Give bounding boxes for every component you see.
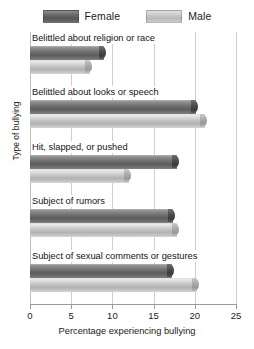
category-label: Belittled about religion or race: [31, 32, 157, 44]
bar-end-cap: [168, 209, 175, 222]
bar-body: [30, 209, 173, 223]
bar-female: [30, 155, 177, 168]
legend-label-male: Male: [188, 10, 211, 22]
bar-group: Belittled about religion or race: [30, 32, 236, 86]
x-axis-tick-label: 20: [190, 310, 201, 321]
bar-body: [30, 169, 129, 183]
chart-legend: Female Male: [0, 6, 254, 26]
bar-male: [30, 60, 90, 73]
bar-body: [30, 114, 205, 128]
gridline: [236, 32, 237, 304]
bar-female: [30, 264, 172, 277]
bar-end-cap: [200, 114, 207, 127]
x-axis-tick-label: 0: [27, 310, 32, 321]
bar-male: [30, 278, 197, 291]
x-axis-tick: [112, 304, 113, 309]
bar-end-cap: [191, 100, 198, 113]
bar-female: [30, 100, 196, 113]
bar-end-cap: [192, 278, 199, 291]
x-axis-title: Percentage experiencing bullying: [0, 326, 254, 336]
bar-group: Subject of sexual comments or gestures: [30, 250, 236, 304]
bar-body: [30, 223, 177, 237]
category-label: Belittled about looks or speech: [31, 86, 161, 98]
bar-male: [30, 223, 177, 236]
bar-male: [30, 169, 129, 182]
x-axis-tick-label: 15: [148, 310, 159, 321]
bar-groups: Belittled about religion or raceBelittle…: [30, 32, 236, 304]
plot-area: Belittled about religion or raceBelittle…: [30, 32, 236, 304]
bar-chart: Female Male Type of bullying Belittled a…: [0, 0, 254, 349]
female-swatch-icon: [43, 10, 79, 23]
x-axis-tick: [236, 304, 237, 309]
x-axis-tick: [154, 304, 155, 309]
x-axis-line: [30, 304, 237, 305]
x-axis-tick-label: 10: [107, 310, 118, 321]
bar-end-cap: [85, 60, 92, 73]
legend-item-female: Female: [43, 10, 121, 23]
bar-body: [30, 155, 177, 169]
bar-body: [30, 278, 197, 292]
bar-end-cap: [99, 46, 106, 59]
male-swatch-icon: [146, 10, 182, 23]
category-label: Subject of rumors: [31, 195, 107, 207]
legend-label-female: Female: [85, 10, 121, 22]
bar-group: Subject of rumors: [30, 195, 236, 249]
bar-body: [30, 46, 104, 60]
bar-end-cap: [172, 155, 179, 168]
bar-end-cap: [172, 223, 179, 236]
bar-body: [30, 60, 90, 74]
bar-body: [30, 264, 172, 278]
bar-female: [30, 209, 173, 222]
bar-male: [30, 114, 205, 127]
x-axis-tick: [195, 304, 196, 309]
bar-group: Belittled about looks or speech: [30, 86, 236, 140]
y-axis-title: Type of bullying: [11, 86, 21, 176]
x-axis-tick-label: 25: [231, 310, 242, 321]
x-axis-tick: [71, 304, 72, 309]
bar-group: Hit, slapped, or pushed: [30, 141, 236, 195]
x-axis-tick-label: 5: [69, 310, 74, 321]
category-label: Hit, slapped, or pushed: [31, 141, 130, 153]
category-label: Subject of sexual comments or gestures: [31, 250, 199, 262]
bar-end-cap: [167, 264, 174, 277]
bar-end-cap: [124, 169, 131, 182]
bar-female: [30, 46, 104, 59]
bar-body: [30, 100, 196, 114]
legend-item-male: Male: [146, 10, 211, 23]
x-axis-tick: [30, 304, 31, 309]
